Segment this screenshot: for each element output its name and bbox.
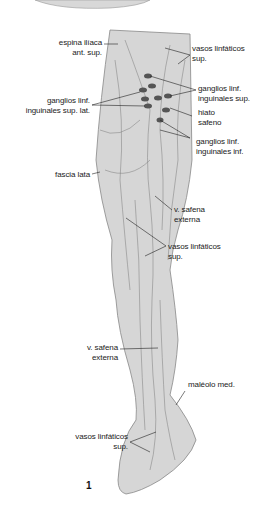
- leg-illustration: [0, 0, 260, 516]
- label-vasos-linfaticos-sup-top: vasos linfáticossup.: [192, 44, 245, 64]
- label-maleolo-med: maléolo med.: [188, 380, 235, 390]
- label-v-safena-externa-thigh: v. safenaexterna: [174, 205, 205, 225]
- label-vasos-linfaticos-sup-foot: vasos linfáticossup.: [60, 432, 128, 452]
- label-ganglios-inguinales-sup-lat: ganglios linf.inguinales sup. lat.: [10, 96, 90, 116]
- label-ganglios-inguinales-sup: ganglios linf.inguinales sup.: [198, 84, 250, 104]
- label-fascia-lata: fascia lata: [30, 170, 90, 180]
- label-ganglios-inguinales-inf: ganglios linf.inguinales inf.: [196, 137, 243, 157]
- figure-number: 1: [86, 480, 92, 491]
- label-v-safena-externa-leg: v. safenaexterna: [70, 343, 118, 363]
- label-vasos-linfaticos-sup-knee: vasos linfáticossup.: [168, 242, 221, 262]
- label-espina-iliaca: espina ilíacaant. sup.: [40, 38, 102, 58]
- label-hiato-safeno: hiatosafeno: [198, 108, 221, 128]
- lymphatic-leg-diagram: espina ilíacaant. sup. vasos linfáticoss…: [0, 0, 260, 516]
